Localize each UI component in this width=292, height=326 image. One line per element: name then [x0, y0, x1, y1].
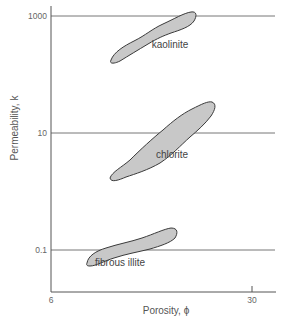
x-tick-label-30: 30 [247, 295, 257, 305]
x-axis-label: Porosity, ϕ [143, 305, 190, 316]
label-kaolinite: kaolinite [152, 39, 189, 50]
region-kaolinite [111, 12, 196, 63]
region-chlorite [110, 102, 215, 181]
x-tick-label-6: 6 [49, 295, 54, 305]
y-tick-label-0.1: 0.1 [35, 245, 47, 255]
label-chlorite: chlorite [156, 149, 189, 160]
y-tick-label-10: 10 [38, 128, 48, 138]
y-axis-label: Permeability, k [9, 95, 20, 161]
label-fibrous-illite: fibrous illite [95, 257, 145, 268]
chart-canvas: 1000 10 0.1 6 30 kaolinite chlorite fibr… [0, 0, 292, 326]
y-tick-label-1000: 1000 [28, 11, 47, 21]
